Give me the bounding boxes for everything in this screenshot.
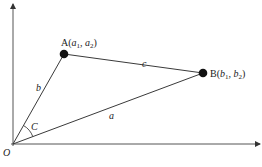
origin-label: O	[3, 147, 10, 158]
angle-c-label: C	[31, 121, 38, 132]
side-c-label: c	[142, 58, 147, 69]
side-a	[13, 73, 203, 144]
side-b-label: b	[36, 82, 41, 93]
point-a-dot	[60, 50, 69, 59]
triangle-diagram: A(a1, a2) B(b1, b2) c b a C O	[0, 0, 262, 167]
point-a-label: A(a1, a2)	[61, 37, 97, 50]
side-b	[13, 54, 64, 144]
side-a-label: a	[109, 110, 114, 121]
point-b-label: B(b1, b2)	[210, 68, 245, 81]
side-c	[64, 54, 203, 73]
point-b-dot	[199, 69, 208, 78]
